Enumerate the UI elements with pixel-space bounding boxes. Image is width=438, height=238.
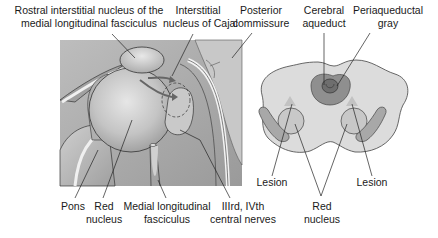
label-rostral-interstitial-nucleus-mlf: Rostral interstitial nucleus of the medi… bbox=[4, 4, 174, 30]
label-red-nucleus-right: Red nucleus bbox=[300, 200, 344, 226]
label-cranial-nerves: IIIrd, IVth central nerves bbox=[210, 200, 276, 226]
label-medial-longitudinal-fasciculus: Medial longitudinal fasciculus bbox=[120, 200, 214, 226]
label-lesion-left: Lesion bbox=[252, 176, 292, 189]
sagittal-illustration bbox=[60, 33, 252, 198]
label-pons: Pons bbox=[58, 200, 88, 213]
label-lesion-right: Lesion bbox=[352, 176, 392, 189]
label-periaqueductal-gray: Periaqueductal gray bbox=[350, 4, 426, 30]
rimlf-shape bbox=[120, 47, 164, 73]
cerebral-aqueduct-shape bbox=[322, 79, 338, 93]
label-interstitial-nucleus-cajal: Interstitial nucleus of Cajal bbox=[163, 4, 233, 30]
red-nucleus-shape bbox=[89, 68, 173, 152]
label-red-nucleus-left: Red nucleus bbox=[86, 200, 122, 226]
label-cerebral-aqueduct: Cerebral aqueduct bbox=[300, 4, 348, 30]
label-posterior-commissure: Posterior commissure bbox=[232, 4, 290, 30]
cross-section-illustration bbox=[259, 33, 408, 196]
